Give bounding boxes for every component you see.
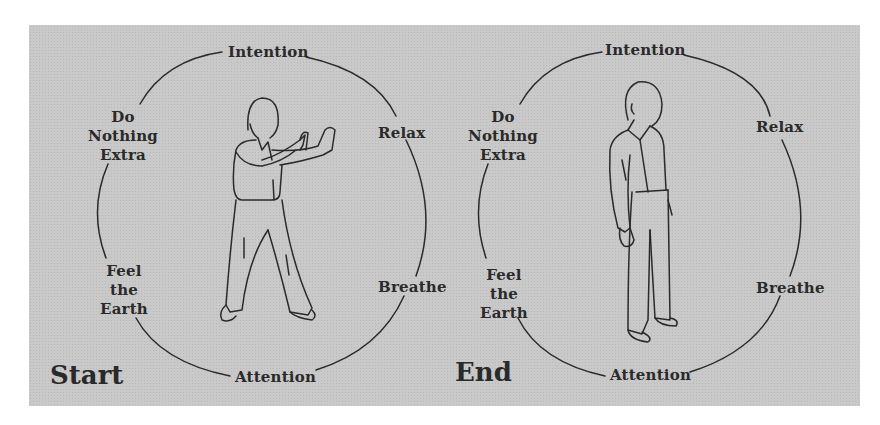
label-relax-start: Relax — [378, 124, 425, 143]
label-attention-start: Attention — [235, 368, 316, 387]
label-line: Nothing — [88, 127, 158, 146]
label-breathe-end: Breathe — [756, 279, 825, 298]
label-breathe-start: Breathe — [378, 278, 447, 297]
panel-title-start: Start — [50, 360, 123, 390]
label-attention-end: Attention — [610, 366, 691, 385]
label-line: Feel — [100, 262, 148, 281]
label-relax-end: Relax — [756, 118, 803, 137]
label-line: Do — [468, 108, 538, 127]
label-line: Nothing — [468, 127, 538, 146]
cycle-circle-start — [97, 52, 425, 376]
label-do-nothing-extra-end: Do Nothing Extra — [468, 108, 538, 165]
label-line: Earth — [480, 304, 528, 323]
diagram-artwork — [0, 0, 880, 425]
label-line: Do — [88, 108, 158, 127]
figure-end-pose-icon — [610, 82, 677, 342]
label-line: the — [480, 285, 528, 304]
label-line: Extra — [468, 146, 538, 165]
figure-start-pose-icon — [221, 98, 335, 321]
label-line: the — [100, 281, 148, 300]
label-feel-the-earth-start: Feel the Earth — [100, 262, 148, 319]
label-feel-the-earth-end: Feel the Earth — [480, 266, 528, 323]
label-line: Extra — [88, 146, 158, 165]
cycle-circle-end — [478, 52, 800, 376]
label-line: Earth — [100, 300, 148, 319]
label-intention-end: Intention — [605, 41, 686, 60]
panel-title-end: End — [455, 357, 512, 387]
label-do-nothing-extra-start: Do Nothing Extra — [88, 108, 158, 165]
label-line: Feel — [480, 266, 528, 285]
label-intention-start: Intention — [228, 43, 309, 62]
